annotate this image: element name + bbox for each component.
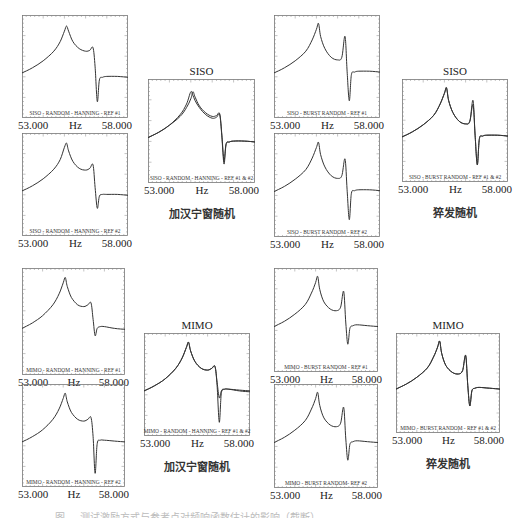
frf-panel-p9: MIMO - RANDOM - HANNING - REF #1 & #253.… (144, 333, 250, 436)
x-max-label: 58.000 (224, 437, 254, 449)
frf-panel-p11: MIMO - BURST RANDOM- REF #253.000Hz58.00… (274, 384, 378, 488)
frf-curve (396, 341, 500, 406)
frf-curve (396, 341, 500, 406)
panel-legend: MIMO - BURST RANDOM- REF #2 (285, 480, 367, 486)
panel-title: MIMO (144, 319, 250, 331)
frf-plot: SISO - RANDOM - HANNING - REF #1 & #2 (148, 79, 255, 183)
frf-panel-p12: MIMO - BURST RANDOM - REF #1 & #253.000H… (396, 333, 500, 433)
panel-legend: MIMO - BURST RANDOM - REF #1 & #2 (400, 425, 496, 431)
x-min-label: 53.000 (270, 489, 300, 501)
x-min-label: 53.000 (398, 183, 428, 195)
group-caption: 猝发随机 (402, 204, 508, 220)
frf-curve (22, 393, 125, 473)
x-max-label: 58.000 (99, 488, 129, 500)
x-max-label: 58.000 (102, 119, 132, 131)
frf-plot: MIMO - RANDOM - HANNING - REF #1 (22, 268, 125, 375)
frf-curve (22, 143, 128, 208)
x-min-label: 53.000 (144, 184, 174, 196)
panel-title: MIMO (396, 319, 500, 331)
frf-curve (148, 91, 255, 164)
x-min-label: 53.000 (18, 237, 48, 249)
frf-plot: SISO - BURST RANDOM - REF #1 (274, 15, 380, 118)
panel-legend: SISO - BURST RANDOM - REF #1 (287, 110, 367, 116)
frf-panel-p2: SISO - RANDOM - HANNING - REF #253.000Hz… (22, 133, 128, 236)
x-max-label: 58.000 (229, 184, 259, 196)
x-max-label: 58.000 (354, 119, 384, 131)
x-max-label: 58.000 (482, 183, 512, 195)
x-max-label: 58.000 (474, 434, 504, 446)
x-axis-label: Hz (69, 237, 82, 249)
panel-legend: SISO - RANDOM - HANNING - REF #2 (30, 228, 121, 234)
x-min-label: 53.000 (18, 488, 48, 500)
frf-panel-p8: MIMO - RANDOM - HANNING - REF #253.000Hz… (22, 384, 125, 487)
panel-legend: MIMO - BURST RANDOM - REF #1 (284, 364, 368, 370)
panel-legend: SISO - BURST RANDOM - REF #2 (287, 229, 367, 235)
frf-plot: MIMO - RANDOM - HANNING - REF #1 & #2 (144, 333, 250, 436)
panel-title: SISO (148, 65, 255, 77)
frf-curve (148, 92, 255, 161)
frf-plot: SISO - BURST RANDOM - REF #1 & #2 (402, 79, 508, 182)
group-caption: 加汉宁窗随机 (148, 205, 255, 221)
panel-legend: SISO - RANDOM - HANNING - REF #1 (30, 110, 121, 116)
x-axis-label: Hz (320, 489, 333, 501)
frf-curve (402, 87, 508, 165)
x-max-label: 58.000 (102, 237, 132, 249)
frf-plot: SISO - RANDOM - HANNING - REF #2 (22, 133, 128, 236)
x-min-label: 53.000 (18, 119, 48, 131)
x-axis-label: Hz (191, 437, 204, 449)
x-axis-label: Hz (69, 119, 82, 131)
x-max-label: 58.000 (354, 238, 384, 250)
frf-curve (274, 392, 378, 460)
group-caption: 加汉宁窗随机 (144, 458, 250, 474)
frf-plot: MIMO - BURST RANDOM - REF #1 & #2 (396, 333, 500, 433)
frf-plot: SISO - RANDOM - HANNING - REF #1 (22, 15, 128, 118)
frf-plot: SISO - BURST RANDOM - REF #2 (274, 133, 380, 237)
frf-plot: MIMO - RANDOM - HANNING - REF #2 (22, 384, 125, 487)
x-axis-label: Hz (321, 119, 334, 131)
x-axis-label: Hz (196, 184, 209, 196)
x-axis-label: Hz (449, 183, 462, 195)
x-min-label: 53.000 (270, 119, 300, 131)
x-min-label: 53.000 (270, 238, 300, 250)
frf-curve (22, 26, 128, 102)
frf-curve (274, 142, 380, 220)
frf-panel-p7: MIMO - RANDOM - HANNING - REF #153.000Hz… (22, 268, 125, 375)
frf-plot: MIMO - BURST RANDOM - REF #1 (274, 268, 378, 372)
frf-plot: MIMO - BURST RANDOM- REF #2 (274, 384, 378, 488)
frf-panel-p4: SISO - BURST RANDOM - REF #153.000Hz58.0… (274, 15, 380, 118)
panel-legend: MIMO - RANDOM - HANNING - REF #1 & #2 (144, 428, 251, 434)
frf-curve (274, 276, 378, 344)
panel-legend: SISO - BURST RANDOM - REF #1 & #2 (409, 174, 501, 180)
frf-panel-p10: MIMO - BURST RANDOM - REF #153.000Hz58.0… (274, 268, 378, 372)
x-axis-label: Hz (68, 488, 81, 500)
frf-panel-p3: SISO - RANDOM - HANNING - REF #1 & #253.… (148, 79, 255, 183)
x-max-label: 58.000 (352, 489, 382, 501)
panel-title: SISO (402, 65, 508, 77)
frf-curve (402, 88, 508, 165)
panel-legend: SISO - RANDOM - HANNING - REF #1 & #2 (150, 175, 253, 181)
frf-curve (274, 23, 380, 101)
panel-legend: MIMO - RANDOM - HANNING - REF #1 (26, 367, 121, 373)
group-caption: 猝发随机 (396, 455, 500, 471)
frf-panel-p6: SISO - BURST RANDOM - REF #1 & #253.000H… (402, 79, 508, 182)
frf-curve (144, 342, 250, 422)
x-min-label: 53.000 (140, 437, 170, 449)
x-min-label: 53.000 (392, 434, 422, 446)
frf-curve (22, 277, 125, 335)
frf-panel-p5: SISO - BURST RANDOM - REF #253.000Hz58.0… (274, 133, 380, 237)
panel-legend: MIMO - RANDOM - HANNING - REF #2 (26, 479, 121, 485)
figure-caption: 图 … 测试激励方式与参考点对频响函数估计的影响（截断） (55, 509, 485, 518)
frf-panel-p1: SISO - RANDOM - HANNING - REF #153.000Hz… (22, 15, 128, 118)
x-axis-label: Hz (442, 434, 455, 446)
x-axis-label: Hz (321, 238, 334, 250)
